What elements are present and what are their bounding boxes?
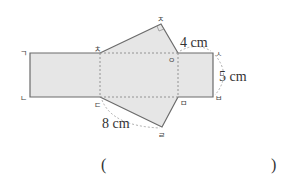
vertex-label-d: ㄷ [94, 101, 101, 110]
vertex-label-j: ㅈ [157, 15, 164, 24]
prism-net-diagram: ㄱ ㄴ ㄷ ㄹ ㅁ ㅂ ㅅ ㅇ ㅈ ㅊ 4 cm 5 cm 8 cm ( ) [0, 0, 289, 181]
answer-close-paren: ) [271, 156, 276, 174]
vertex-label-r: ㄹ [158, 131, 165, 140]
measure-8cm: 8 cm [102, 116, 130, 131]
measure-5cm: 5 cm [219, 69, 247, 84]
vertex-label-m: ㅁ [180, 99, 187, 108]
vertex-label-ch: ㅊ [94, 45, 101, 54]
vertex-label-g: ㄱ [20, 49, 27, 58]
vertex-label-s: ㅅ [215, 50, 222, 59]
rect-faces-fill [30, 53, 213, 97]
top-triangle-fill [100, 24, 178, 53]
vertex-label-n: ㄴ [20, 94, 27, 103]
vertex-label-o: ㅇ [168, 56, 175, 65]
vertex-label-b: ㅂ [215, 94, 222, 103]
measure-4cm: 4 cm [180, 35, 208, 50]
answer-open-paren: ( [101, 156, 106, 174]
